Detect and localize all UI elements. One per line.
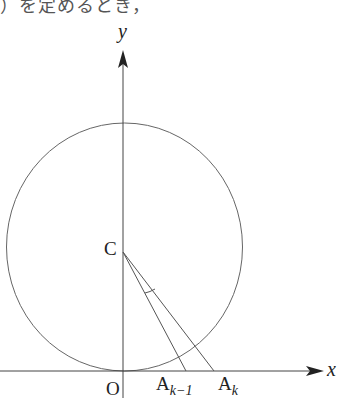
line-c-to-a-curr <box>123 252 214 371</box>
origin-label: O <box>106 378 120 399</box>
diagram: ）を定めるとき， y x C O Ak−1 Ak <box>0 0 343 412</box>
a-prev-label: Ak−1 <box>156 373 192 398</box>
line-c-to-a-prev <box>123 252 186 371</box>
a-curr-label: Ak <box>218 373 239 398</box>
circle <box>7 123 243 371</box>
center-label: C <box>104 238 117 259</box>
y-axis-label: y <box>116 20 127 43</box>
x-axis-label: x <box>326 358 336 380</box>
figure: y x C O Ak−1 Ak <box>0 0 343 412</box>
